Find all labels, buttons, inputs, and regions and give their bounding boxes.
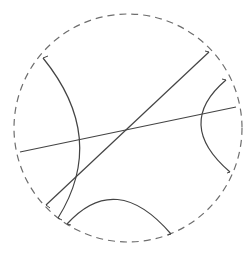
endpoint-tick [227, 172, 230, 173]
geodesic-arc-bottom [67, 199, 171, 234]
endpoint-ticks [43, 51, 230, 235]
geodesic-lines [20, 52, 236, 205]
endpoint-tick [43, 56, 48, 58]
geodesic-arc-left [43, 58, 80, 218]
endpoint-tick [222, 79, 226, 80]
diagram-svg [0, 0, 248, 256]
geodesic-arcs [43, 58, 230, 234]
geodesic-diameter-shallow [20, 107, 236, 152]
poincare-disk-diagram [0, 0, 248, 256]
geodesic-diameter-steep [46, 52, 209, 205]
geodesic-arc-right [201, 80, 230, 172]
endpoint-tick [205, 51, 209, 52]
